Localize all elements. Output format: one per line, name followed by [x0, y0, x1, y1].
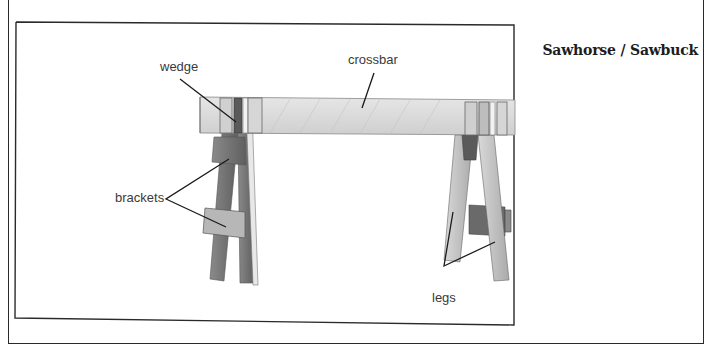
figure-title: Sawhorse / Sawbuck: [542, 42, 698, 58]
left-leg-assembly: [203, 110, 258, 285]
bracket-lower: [203, 208, 245, 238]
bracket-upper: [212, 137, 246, 165]
right-joint: [465, 102, 507, 135]
label-brackets: brackets: [115, 190, 164, 205]
inner-frame: [15, 22, 514, 325]
label-wedge: wedge: [160, 59, 198, 74]
label-crossbar: crossbar: [348, 52, 398, 67]
label-legs: legs: [432, 290, 456, 305]
right-leg-assembly: [444, 135, 511, 281]
